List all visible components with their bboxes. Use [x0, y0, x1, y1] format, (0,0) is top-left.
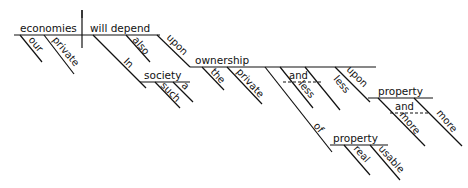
- object-property-1: property: [378, 85, 423, 97]
- preposition-of: of: [311, 120, 326, 135]
- preposition-in: In: [122, 56, 136, 70]
- modifier-also: also: [130, 34, 151, 57]
- modifier-the: the: [209, 66, 228, 86]
- modifier-such: such: [159, 80, 183, 104]
- object-ownership: ownership: [195, 54, 249, 66]
- sentence-diagram: economies our private will depend also I…: [0, 0, 468, 188]
- modifier-less-2: less: [331, 73, 352, 95]
- modifier-our: our: [26, 34, 46, 54]
- preposition-upon-1: upon: [165, 32, 191, 58]
- conjunction-and-1: and: [289, 70, 308, 81]
- modifier-more-2: more: [434, 107, 459, 134]
- verb-word: will depend: [90, 22, 150, 34]
- modifier-private-ownership: private: [235, 66, 267, 100]
- subject-word: economies: [20, 22, 77, 34]
- object-society: society: [144, 69, 181, 81]
- object-property-2: property: [333, 132, 378, 144]
- conjunction-and-2: and: [395, 101, 414, 112]
- modifier-real: real: [352, 143, 373, 164]
